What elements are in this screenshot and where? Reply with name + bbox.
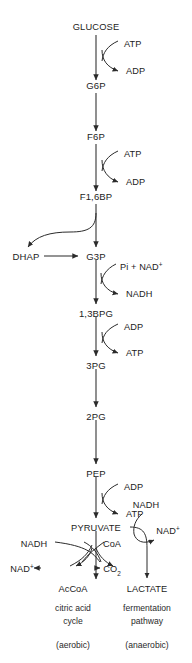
nad-plus-superscript: +	[159, 261, 163, 268]
curve-atp-in-2	[102, 151, 118, 171]
node-g3p: G3P	[86, 251, 105, 262]
caption-aerobic: (aerobic)	[56, 640, 90, 650]
label-atp-in-2: ATP	[124, 149, 142, 159]
pathway-canvas: GLUCOSE G6P F6P F1,6BP G3P 1,3BPG 3PG 2P…	[0, 0, 192, 663]
curve-coa-in	[84, 542, 101, 562]
curve-f16bp-dhap	[28, 213, 96, 247]
label-atp-out-3: ATP	[126, 348, 144, 358]
node-pyruvate: PYRUVATE	[71, 523, 121, 533]
label-nadh-pdh-in: NADH	[21, 539, 47, 549]
nad-pdh-plus-superscript: +	[30, 563, 34, 570]
label-adp-out-2: ADP	[126, 177, 145, 187]
fate-captions: citric acid cycle (aerobic) fermentation…	[55, 603, 171, 650]
node-glucose: GLUCOSE	[73, 22, 120, 32]
caption-fermentation-line2: pathway	[131, 616, 164, 626]
curve-pi-nad-in	[101, 264, 116, 284]
node-accoa: AcCoA	[59, 584, 89, 594]
caption-citric-acid-cycle-line1: citric acid	[55, 603, 91, 613]
label-adp-out-1: ADP	[126, 66, 145, 76]
node-f16bp: F1,6BP	[80, 191, 113, 202]
label-nadh-ferment-in: NADH	[133, 500, 159, 510]
caption-anaerobic: (anaerobic)	[125, 640, 169, 650]
curve-nadh-in	[55, 542, 100, 562]
node-dhap: DHAP	[13, 251, 40, 262]
label-adp-in-4: ADP	[124, 482, 143, 492]
label-atp-in-1: ATP	[124, 39, 142, 49]
curve-atp-in-1	[102, 41, 118, 61]
label-atp-out-4: ATP	[126, 509, 144, 519]
curve-adp-in-4	[102, 484, 118, 504]
node-g6p: G6P	[86, 80, 105, 91]
node-2pg: 2PG	[86, 411, 105, 422]
dhap-branch	[28, 213, 96, 256]
node-f6p: F6P	[87, 131, 105, 142]
node-lactate: LACTATE	[127, 584, 167, 594]
label-adp-in-3: ADP	[124, 322, 143, 332]
glycolysis-diagram: GLUCOSE G6P F6P F1,6BP G3P 1,3BPG 3PG 2P…	[0, 0, 192, 663]
nad-ferment-plus-superscript: +	[176, 525, 180, 532]
node-pep: PEP	[86, 468, 105, 479]
label-coa-pdh-in: CoA	[103, 539, 122, 549]
caption-citric-acid-cycle-line2: cycle	[63, 616, 83, 626]
label-pi-nad-in: Pi + NAD+	[120, 261, 163, 273]
node-3pg: 3PG	[86, 360, 105, 371]
caption-fermentation-line1: fermentation	[123, 603, 171, 613]
co2-subscript: 2	[117, 570, 121, 577]
label-nad-pdh-out: NAD+	[10, 563, 34, 575]
node-13bpg: 1,3BPG	[79, 308, 113, 319]
label-co2-pdh-out: CO2	[103, 564, 121, 577]
label-nad-ferment-out: NAD+	[156, 525, 180, 537]
curve-adp-in-3	[102, 324, 118, 343]
curve-pyruvate-lactate	[130, 527, 147, 578]
label-nadh-out: NADH	[126, 289, 152, 299]
lactate-branch	[130, 514, 154, 578]
cofactor-curves	[101, 41, 118, 514]
